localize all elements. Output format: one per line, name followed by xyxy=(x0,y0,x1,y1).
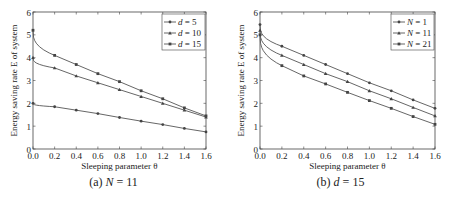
dot-marker-icon xyxy=(346,72,349,75)
chart-panel-a: 0.00.20.40.60.81.01.21.41.60123456Sleepi… xyxy=(0,0,227,206)
y-tick-label: 2 xyxy=(27,99,32,109)
x-axis-label: Sleeping parameter θ xyxy=(81,161,157,171)
dot-marker-icon xyxy=(368,81,371,84)
line-chart-b: 0.00.20.40.60.81.01.21.41.60123456Sleepi… xyxy=(227,0,454,175)
dot-marker-icon xyxy=(161,123,164,126)
square-marker-icon xyxy=(140,89,143,92)
x-tick-label: 0.2 xyxy=(49,151,60,161)
square-marker-icon xyxy=(169,43,172,46)
x-tick-label: 1.6 xyxy=(200,151,212,161)
dot-marker-icon xyxy=(324,63,327,66)
x-tick-label: 1.4 xyxy=(408,151,420,161)
square-marker-icon xyxy=(32,29,35,32)
caption-prefix: (a) xyxy=(89,175,102,189)
square-marker-icon xyxy=(434,123,437,126)
x-tick-label: 0.4 xyxy=(298,151,310,161)
square-marker-icon xyxy=(412,115,415,118)
y-tick-label: 2 xyxy=(254,99,259,109)
y-axis-label: Energy saving rate E of system xyxy=(236,24,246,136)
square-marker-icon xyxy=(161,97,164,100)
series-line xyxy=(33,58,206,117)
y-tick-label: 4 xyxy=(254,53,259,63)
square-marker-icon xyxy=(398,43,401,46)
y-tick-label: 5 xyxy=(27,30,32,40)
y-tick-label: 4 xyxy=(27,53,32,63)
caption-value: = 15 xyxy=(343,175,365,189)
caption-prefix: (b) xyxy=(317,175,331,189)
x-tick-label: 0.6 xyxy=(320,151,332,161)
square-marker-icon xyxy=(183,107,186,110)
square-marker-icon xyxy=(324,83,327,86)
legend-label: d = 10 xyxy=(178,28,202,38)
square-marker-icon xyxy=(280,64,283,67)
caption-variable: d xyxy=(334,175,340,189)
triangle-marker-icon xyxy=(258,28,262,31)
x-tick-label: 1.0 xyxy=(364,151,376,161)
y-tick-label: 0 xyxy=(254,145,259,155)
line-chart-a: 0.00.20.40.60.81.01.21.41.60123456Sleepi… xyxy=(0,0,227,175)
dot-marker-icon xyxy=(32,102,35,105)
legend-label: N = 21 xyxy=(406,39,432,49)
dot-marker-icon xyxy=(259,23,262,26)
x-tick-label: 1.0 xyxy=(136,151,148,161)
y-tick-label: 1 xyxy=(254,122,259,132)
legend-label: N = 11 xyxy=(406,28,431,38)
caption-b: (b) d = 15 xyxy=(227,175,454,190)
square-marker-icon xyxy=(96,72,99,75)
legend-label: d = 5 xyxy=(178,17,197,27)
dot-marker-icon xyxy=(53,105,56,108)
y-tick-label: 5 xyxy=(254,30,259,40)
legend-label: d = 15 xyxy=(178,39,202,49)
x-tick-label: 0.8 xyxy=(342,151,354,161)
dot-marker-icon xyxy=(118,116,121,119)
x-tick-label: 1.2 xyxy=(386,151,397,161)
y-tick-label: 6 xyxy=(254,8,259,18)
square-marker-icon xyxy=(302,75,305,78)
y-tick-label: 1 xyxy=(27,122,32,132)
caption-variable: N xyxy=(105,175,113,189)
dot-marker-icon xyxy=(302,54,305,57)
square-marker-icon xyxy=(390,107,393,110)
y-tick-label: 3 xyxy=(254,76,259,86)
dot-marker-icon xyxy=(75,109,78,112)
y-tick-label: 3 xyxy=(27,76,32,86)
square-marker-icon xyxy=(205,114,208,117)
square-marker-icon xyxy=(118,80,121,83)
y-tick-label: 0 xyxy=(27,145,32,155)
x-tick-label: 0.6 xyxy=(92,151,104,161)
dot-marker-icon xyxy=(434,107,437,110)
dot-marker-icon xyxy=(140,120,143,123)
square-marker-icon xyxy=(53,54,56,57)
dot-marker-icon xyxy=(96,112,99,115)
dot-marker-icon xyxy=(280,45,283,48)
dot-marker-icon xyxy=(398,21,401,24)
square-marker-icon xyxy=(346,91,349,94)
y-axis-label: Energy saving rate E of system xyxy=(9,24,19,136)
x-tick-label: 0.2 xyxy=(276,151,287,161)
legend: N = 1N = 11N = 21 xyxy=(391,14,434,50)
square-marker-icon xyxy=(368,99,371,102)
x-tick-label: 1.2 xyxy=(157,151,168,161)
square-marker-icon xyxy=(259,33,262,36)
dot-marker-icon xyxy=(169,21,172,24)
chart-panel-b: 0.00.20.40.60.81.01.21.41.60123456Sleepi… xyxy=(227,0,454,206)
square-marker-icon xyxy=(75,63,78,66)
caption-value: = 11 xyxy=(117,175,138,189)
caption-a: (a) N = 11 xyxy=(0,175,227,190)
x-tick-label: 0.8 xyxy=(114,151,126,161)
x-tick-label: 0.4 xyxy=(71,151,83,161)
dot-marker-icon xyxy=(390,89,393,92)
dot-marker-icon xyxy=(183,127,186,130)
dot-marker-icon xyxy=(205,130,208,133)
x-axis-label: Sleeping parameter θ xyxy=(309,161,385,171)
legend-label: N = 1 xyxy=(406,17,427,27)
x-tick-label: 1.4 xyxy=(179,151,191,161)
y-tick-label: 6 xyxy=(27,8,32,18)
dot-marker-icon xyxy=(412,99,415,102)
x-tick-label: 1.6 xyxy=(429,151,441,161)
legend: d = 5d = 10d = 15 xyxy=(162,14,205,50)
